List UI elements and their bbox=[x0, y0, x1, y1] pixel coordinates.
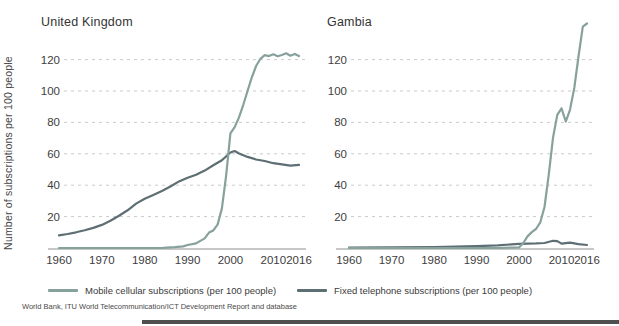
y-tick-label: 40 bbox=[47, 179, 60, 191]
x-tick-label: 2010 bbox=[549, 254, 575, 266]
series-line bbox=[349, 24, 587, 249]
series-line bbox=[59, 151, 299, 235]
bottom-divider-bar bbox=[142, 320, 619, 324]
x-tick-label: 2000 bbox=[218, 254, 244, 266]
y-tick-label: 40 bbox=[334, 179, 347, 191]
x-tick-label: 2016 bbox=[286, 254, 312, 266]
x-tick-label: 1980 bbox=[421, 254, 447, 266]
x-tick-label: 2000 bbox=[506, 254, 532, 266]
y-tick-label: 100 bbox=[41, 85, 60, 97]
legend-item-mobile: Mobile cellular subscriptions (per 100 p… bbox=[48, 284, 276, 296]
y-tick-label: 80 bbox=[334, 116, 347, 128]
x-tick-label: 1960 bbox=[46, 254, 72, 266]
mobile-line-swatch bbox=[48, 289, 78, 292]
charts-canvas: 2040608010012019601970198019902000201020… bbox=[0, 0, 619, 326]
x-tick-label: 1980 bbox=[132, 254, 158, 266]
legend-label-fixed: Fixed telephone subscriptions (per 100 p… bbox=[334, 285, 532, 296]
x-tick-label: 2016 bbox=[574, 254, 600, 266]
source-note: World Bank, ITU World Telecommunication/… bbox=[22, 302, 297, 311]
x-tick-label: 1970 bbox=[379, 254, 405, 266]
fixed-line-swatch bbox=[297, 289, 327, 292]
y-tick-label: 20 bbox=[47, 211, 60, 223]
y-tick-label: 60 bbox=[47, 148, 60, 160]
series-line bbox=[349, 241, 587, 248]
y-tick-label: 80 bbox=[47, 116, 60, 128]
legend-item-fixed: Fixed telephone subscriptions (per 100 p… bbox=[297, 284, 532, 296]
y-tick-label: 20 bbox=[334, 211, 347, 223]
x-tick-label: 1990 bbox=[464, 254, 490, 266]
y-tick-label: 120 bbox=[41, 54, 60, 66]
y-tick-label: 120 bbox=[328, 54, 347, 66]
series-line bbox=[59, 53, 299, 248]
y-tick-label: 60 bbox=[334, 148, 347, 160]
x-tick-label: 1960 bbox=[336, 254, 362, 266]
x-tick-label: 1970 bbox=[89, 254, 115, 266]
y-tick-label: 100 bbox=[328, 85, 347, 97]
legend-label-mobile: Mobile cellular subscriptions (per 100 p… bbox=[85, 285, 276, 296]
chart-figure: United Kingdom Gambia Number of subscrip… bbox=[0, 0, 619, 326]
x-tick-label: 1990 bbox=[175, 254, 201, 266]
x-tick-label: 2010 bbox=[260, 254, 286, 266]
